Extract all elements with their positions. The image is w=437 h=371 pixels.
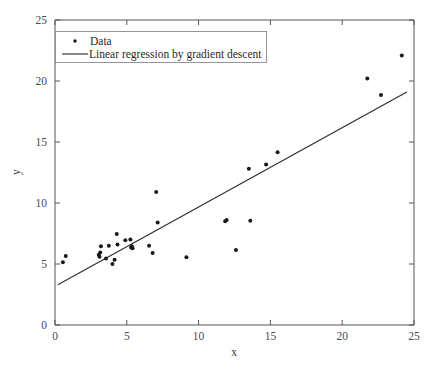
data-point-series xyxy=(61,53,404,266)
legend-label-regression: Linear regression by gradient descent xyxy=(89,48,262,61)
y-tick-label: 15 xyxy=(36,136,48,148)
figure-canvas: 0510152025 0510152025 x y Data Linear re… xyxy=(0,0,437,371)
x-axis-ticks xyxy=(55,20,414,325)
axis-frame-box xyxy=(55,20,414,325)
legend-marker-dot xyxy=(73,39,76,42)
x-tick-label: 25 xyxy=(408,330,420,342)
data-point xyxy=(131,246,135,250)
x-tick-label: 0 xyxy=(52,330,58,342)
x-tick-label: 20 xyxy=(336,330,348,342)
data-point xyxy=(99,244,103,248)
x-axis-label: x xyxy=(231,346,237,358)
data-point xyxy=(234,248,238,252)
data-point xyxy=(264,163,268,167)
data-point xyxy=(64,254,68,258)
y-axis-tick-labels: 0510152025 xyxy=(36,14,48,331)
data-point xyxy=(276,150,280,154)
y-tick-label: 10 xyxy=(36,197,48,209)
y-tick-label: 25 xyxy=(36,14,48,26)
data-point xyxy=(98,255,102,259)
data-point xyxy=(156,221,160,225)
data-point xyxy=(247,167,251,171)
y-tick-label: 0 xyxy=(41,319,47,331)
y-tick-label: 5 xyxy=(41,258,47,270)
y-axis-ticks xyxy=(55,20,414,325)
data-point xyxy=(151,251,155,255)
data-point xyxy=(147,244,151,248)
data-point xyxy=(115,232,119,236)
data-point xyxy=(365,77,369,81)
legend-label-data: Data xyxy=(90,35,112,47)
axis-frame xyxy=(55,20,414,325)
data-point xyxy=(184,255,188,259)
data-point xyxy=(107,244,111,248)
regression-line xyxy=(58,92,407,285)
data-point xyxy=(128,238,132,242)
x-tick-label: 10 xyxy=(193,330,205,342)
x-axis-tick-labels: 0510152025 xyxy=(52,330,420,342)
data-point xyxy=(113,258,117,262)
y-tick-label: 20 xyxy=(36,75,48,87)
data-point xyxy=(98,250,102,254)
data-point xyxy=(379,93,383,97)
data-point xyxy=(104,257,108,261)
x-tick-label: 5 xyxy=(124,330,130,342)
data-point xyxy=(110,262,114,266)
scatter-plot: 0510152025 0510152025 x y Data Linear re… xyxy=(0,0,437,371)
data-point xyxy=(400,53,404,57)
data-point xyxy=(225,218,229,222)
data-point xyxy=(61,260,65,264)
data-point xyxy=(154,190,158,194)
data-point xyxy=(123,238,127,242)
regression-line-path xyxy=(58,92,407,285)
data-point xyxy=(115,242,119,246)
x-tick-label: 15 xyxy=(265,330,277,342)
legend: Data Linear regression by gradient desce… xyxy=(56,32,267,63)
y-axis-label: y xyxy=(10,169,23,175)
data-point xyxy=(248,219,252,223)
